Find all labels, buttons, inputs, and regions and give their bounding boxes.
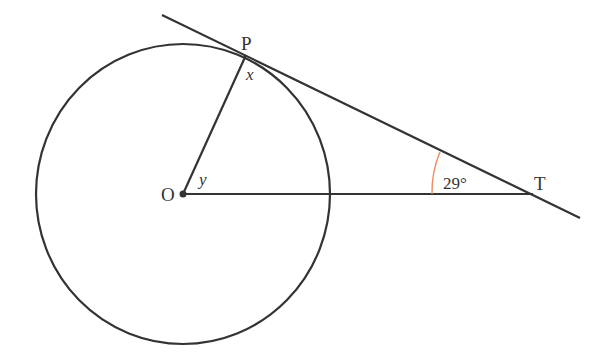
radius-OP — [183, 55, 246, 194]
point-label-T: T — [534, 173, 546, 194]
angle-arc-T — [432, 152, 440, 194]
tangent-line — [162, 15, 580, 218]
angle-label-x: x — [245, 65, 254, 84]
point-label-P: P — [241, 33, 252, 54]
angle-label-y: y — [197, 170, 207, 189]
geometry-diagram: P O T x y 29° — [0, 0, 605, 358]
angle-label-29: 29° — [443, 174, 467, 193]
point-label-O: O — [161, 184, 175, 205]
center-point-O — [180, 191, 187, 198]
